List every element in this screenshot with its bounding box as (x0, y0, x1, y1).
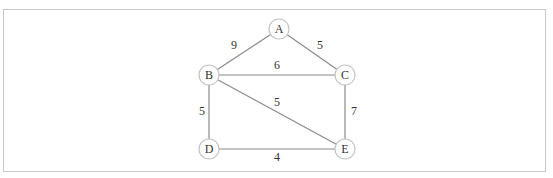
node-b-label: B (205, 68, 213, 82)
node-c: C (335, 65, 355, 85)
edge-a-b (209, 29, 279, 75)
weight-b-c: 6 (274, 58, 280, 72)
weight-a-b: 9 (231, 38, 237, 52)
weight-d-e: 4 (274, 150, 280, 164)
node-b: B (199, 65, 219, 85)
nodes-group: A B C D E (199, 19, 355, 159)
node-c-label: C (341, 68, 349, 82)
weight-b-d: 5 (199, 104, 205, 118)
edge-weights-group: 9 5 6 5 5 7 4 (199, 38, 357, 164)
weight-a-c: 5 (317, 38, 323, 52)
node-e-label: E (341, 142, 348, 156)
weight-b-e: 5 (274, 95, 280, 109)
node-a-label: A (275, 22, 284, 36)
node-e: E (335, 139, 355, 159)
node-d-label: D (205, 142, 214, 156)
node-a: A (269, 19, 289, 39)
edge-a-c (279, 29, 345, 75)
node-d: D (199, 139, 219, 159)
weight-c-e: 7 (351, 104, 357, 118)
graph-canvas: 9 5 6 5 5 7 4 A B C D E (0, 0, 553, 178)
edges-group (209, 29, 345, 149)
edge-b-e (209, 75, 345, 149)
